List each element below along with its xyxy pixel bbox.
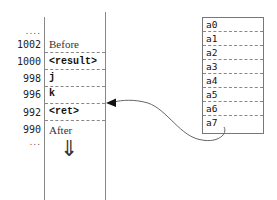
pointer-arrow [0,0,277,200]
arrowhead-icon [106,99,116,108]
